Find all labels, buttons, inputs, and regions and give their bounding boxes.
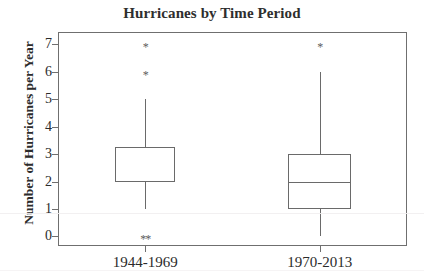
y-tick-label: 5 [30, 92, 52, 106]
scan-artifact-line [0, 213, 424, 214]
x-tick-mark [320, 246, 321, 252]
y-tick-mark [52, 154, 58, 155]
y-tick-mark [52, 236, 58, 237]
y-tick-label: 3 [30, 147, 52, 161]
y-tick-mark [52, 209, 58, 210]
y-tick-mark [52, 127, 58, 128]
outlier-marker: * [308, 41, 332, 53]
y-tick-mark [52, 72, 58, 73]
chart-title: Hurricanes by Time Period [0, 5, 424, 22]
whisker-upper [145, 99, 146, 147]
outlier-marker: ** [133, 233, 157, 245]
whisker-lower [145, 182, 146, 209]
x-tick-label: 1944-1969 [75, 254, 215, 271]
median-line [288, 182, 351, 183]
outlier-marker: * [133, 41, 157, 53]
y-tick-label: 4 [30, 120, 52, 134]
scan-artifact-line-2 [0, 270, 424, 271]
x-tick-label: 1970-2013 [250, 254, 390, 271]
outlier-marker: * [133, 69, 157, 81]
x-tick-mark [145, 246, 146, 252]
y-tick-label: 6 [30, 65, 52, 79]
box [115, 147, 175, 181]
y-tick-label: 0 [30, 229, 52, 243]
y-tick-mark [52, 182, 58, 183]
boxplot-chart: Hurricanes by Time Period Number of Hurr… [0, 0, 424, 279]
y-tick-mark [52, 44, 58, 45]
y-tick-label: 2 [30, 175, 52, 189]
y-tick-label: 7 [30, 37, 52, 51]
whisker-upper [320, 72, 321, 154]
y-tick-mark [52, 99, 58, 100]
